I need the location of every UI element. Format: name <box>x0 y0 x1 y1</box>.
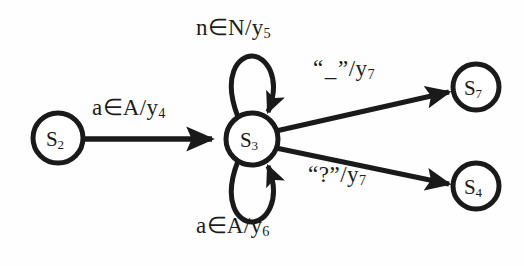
branch-down-open-quote: “ <box>308 162 319 187</box>
fsm-diagram: S2 S3 S7 S4 n∈N/y5 a∈A/y4 “_”/y7 “?”/y7 … <box>0 0 524 266</box>
branch-up-open-quote: “ <box>313 56 324 81</box>
edge-label-loop-top: n∈N/y5 <box>196 16 271 40</box>
entry-subscript: 4 <box>158 105 165 121</box>
transition-self-loop-top <box>231 56 273 117</box>
branch-down-slash: / <box>340 162 347 187</box>
loop-top-input: n∈N <box>196 15 245 40</box>
state-node-s4[interactable]: S4 <box>453 163 499 209</box>
branch-down-output: y <box>347 162 359 187</box>
loop-top-output: y <box>252 15 264 40</box>
branch-up-slash: / <box>349 56 356 81</box>
edge-label-branch-down: “?”/y7 <box>308 163 366 187</box>
branch-down-subscript: 7 <box>359 172 366 188</box>
branch-down-close-quote: ” <box>329 162 340 187</box>
state-node-s7[interactable]: S7 <box>453 64 499 110</box>
edge-label-loop-bottom: a∈A/y6 <box>196 214 269 238</box>
edge-label-branch-up: “_”/y7 <box>313 57 375 81</box>
edge-path-loop-top <box>231 56 273 117</box>
branch-up-subscript: 7 <box>368 66 375 82</box>
state-subscript-s2: 2 <box>58 137 65 152</box>
branch-up-output: y <box>356 56 368 81</box>
branch-down-symbol: ? <box>319 162 330 187</box>
loop-top-subscript: 5 <box>264 25 271 41</box>
state-node-s3[interactable]: S3 <box>226 113 278 165</box>
entry-output: y <box>146 95 158 120</box>
state-subscript-s4: 4 <box>476 185 483 200</box>
state-subscript-s7: 7 <box>476 86 483 101</box>
loop-top-slash: / <box>245 15 252 40</box>
branch-up-symbol: _ <box>324 57 338 80</box>
state-node-s2[interactable]: S2 <box>33 113 83 163</box>
loop-bottom-input: a∈A <box>196 213 244 238</box>
loop-bottom-output: y <box>250 213 262 238</box>
loop-bottom-subscript: 6 <box>262 223 269 239</box>
edge-label-entry: a∈A/y4 <box>92 96 165 120</box>
entry-input: a∈A <box>92 95 140 120</box>
transition-branch-s3-s7 <box>276 92 449 131</box>
branch-up-close-quote: ” <box>338 56 349 81</box>
edge-line-branch-up <box>276 92 449 131</box>
state-subscript-s3: 3 <box>252 138 259 153</box>
